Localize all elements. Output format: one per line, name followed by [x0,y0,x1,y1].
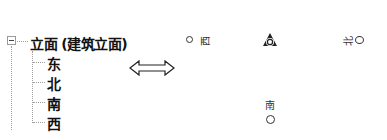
south-elevation-marker-icon[interactable] [266,115,275,124]
tree-connector [17,41,28,42]
tree-connector [33,122,45,123]
collapse-expander-icon[interactable] [7,36,16,45]
tree-connector [33,102,45,103]
tree-node-south[interactable]: 南 [47,93,61,113]
tree-connector [33,82,45,83]
tree-connector [11,46,12,130]
tree-node-north[interactable]: 北 [47,73,61,93]
west-elevation-marker-icon[interactable] [186,36,193,43]
tree-node-elevations[interactable]: 立面 (建筑立面) [30,33,127,53]
tree-node-east[interactable]: 东 [47,53,61,73]
west-elevation-label: 西 [197,36,212,46]
tree-connector [33,62,45,63]
east-elevation-marker-icon[interactable] [355,36,364,44]
tree-node-west[interactable]: 西 [47,113,61,133]
south-elevation-label: 南 [265,97,275,112]
elevation-center-symbol-icon[interactable] [262,32,278,48]
east-elevation-label: 北 [340,36,355,46]
double-headed-arrow-icon [128,58,176,78]
